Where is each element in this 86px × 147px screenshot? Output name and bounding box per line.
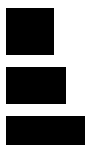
block-bottom <box>6 116 85 145</box>
block-middle <box>6 67 66 104</box>
block-top <box>6 8 54 55</box>
